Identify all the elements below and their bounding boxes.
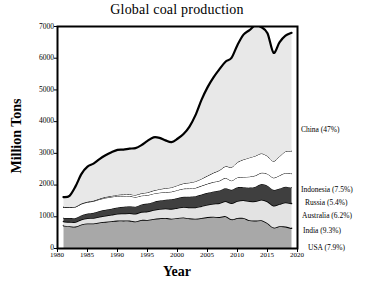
legend-label-usa: USA (7.9%) [308, 243, 345, 252]
chart-figure: Global coal production Million Tons Year… [0, 0, 367, 289]
legend-label-china: China (47%) [301, 125, 340, 134]
legend-label-australia: Australia (6.2%) [302, 211, 352, 220]
legend-label-russia: Russia (5.4%) [305, 198, 348, 207]
legend-label-indonesia: Indonesia (7.5%) [301, 185, 353, 194]
legend-label-india: India (9.3%) [303, 226, 341, 235]
stacked-areas [64, 25, 292, 248]
